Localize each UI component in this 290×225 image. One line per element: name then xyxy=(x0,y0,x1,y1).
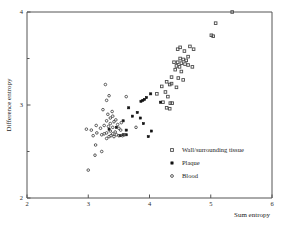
marker-blood xyxy=(109,122,112,125)
marker-blood xyxy=(94,154,97,157)
marker-blood xyxy=(105,120,108,123)
marker-plaque xyxy=(171,162,173,164)
marker-wall-tissue xyxy=(171,102,174,105)
marker-plaque xyxy=(147,136,149,138)
marker-wall-tissue xyxy=(170,82,173,85)
marker-plaque xyxy=(150,93,152,95)
marker-plaque xyxy=(150,130,152,132)
marker-wall-tissue xyxy=(192,48,195,51)
marker-wall-tissue xyxy=(182,58,185,61)
marker-wall-tissue xyxy=(187,64,190,67)
marker-blood xyxy=(111,110,114,113)
y-tick-label: 4 xyxy=(20,8,24,15)
marker-blood xyxy=(116,123,119,126)
marker-wall-tissue xyxy=(180,70,183,73)
marker-wall-tissue xyxy=(189,45,192,48)
marker-wall-tissue xyxy=(185,59,188,62)
legend-label: Wall/surrounding tissue xyxy=(182,146,244,153)
axes: 23456234 xyxy=(20,8,275,207)
marker-blood xyxy=(95,124,98,127)
marker-wall-tissue xyxy=(175,65,178,68)
marker-wall-tissue xyxy=(177,77,180,80)
marker-wall-tissue xyxy=(214,22,217,25)
marker-wall-tissue xyxy=(160,85,163,88)
marker-wall-tissue xyxy=(178,66,181,69)
marker-blood xyxy=(87,169,90,172)
marker-blood xyxy=(100,133,103,136)
marker-wall-tissue xyxy=(171,149,174,152)
y-axis-title: Difference entropy xyxy=(5,78,13,131)
marker-plaque xyxy=(131,115,133,117)
legend: Wall/surrounding tissuePlaqueBlood xyxy=(171,146,244,179)
x-axis-title: Sum entropy xyxy=(234,211,270,219)
marker-wall-tissue xyxy=(212,35,215,38)
marker-plaque xyxy=(142,123,144,125)
marker-wall-tissue xyxy=(183,50,186,53)
marker-blood xyxy=(90,129,93,132)
marker-blood xyxy=(111,126,114,129)
marker-wall-tissue xyxy=(156,93,159,96)
marker-wall-tissue xyxy=(165,106,168,109)
legend-label: Blood xyxy=(182,172,199,179)
series-open-square xyxy=(156,11,234,110)
marker-blood xyxy=(94,144,97,147)
marker-blood xyxy=(100,150,103,153)
x-tick-label: 3 xyxy=(87,200,90,207)
series-open-circle xyxy=(85,83,137,171)
marker-plaque xyxy=(125,129,127,131)
marker-wall-tissue xyxy=(179,57,182,60)
legend-label: Plaque xyxy=(182,159,200,166)
marker-blood xyxy=(99,127,102,130)
marker-blood xyxy=(113,135,116,138)
marker-blood xyxy=(109,130,112,133)
x-tick-label: 2 xyxy=(25,200,28,207)
marker-blood xyxy=(107,125,110,128)
marker-blood xyxy=(171,175,174,178)
marker-blood xyxy=(111,115,114,118)
marker-wall-tissue xyxy=(174,68,177,71)
marker-wall-tissue xyxy=(180,62,183,65)
marker-wall-tissue xyxy=(191,66,194,69)
marker-blood xyxy=(92,134,95,137)
marker-plaque xyxy=(136,111,138,113)
marker-wall-tissue xyxy=(168,107,171,110)
marker-wall-tissue xyxy=(182,79,185,82)
marker-blood xyxy=(114,131,117,134)
marker-wall-tissue xyxy=(176,61,179,64)
plot-canvas: 23456234 Wall/surrounding tissuePlaqueBl… xyxy=(0,0,290,225)
marker-wall-tissue xyxy=(187,55,190,58)
marker-plaque xyxy=(139,117,141,119)
marker-wall-tissue xyxy=(184,63,187,66)
marker-blood xyxy=(135,126,138,129)
marker-blood xyxy=(105,99,108,102)
marker-blood xyxy=(85,128,88,131)
marker-wall-tissue xyxy=(175,86,178,89)
marker-blood xyxy=(96,132,99,135)
marker-wall-tissue xyxy=(164,91,167,94)
x-tick-label: 6 xyxy=(270,200,274,207)
y-tick-label: 3 xyxy=(20,101,23,108)
legend-entry: Wall/surrounding tissue xyxy=(171,146,244,153)
marker-plaque xyxy=(159,101,161,103)
marker-plaque xyxy=(140,100,142,102)
marker-wall-tissue xyxy=(167,95,170,98)
marker-wall-tissue xyxy=(165,80,168,83)
marker-blood xyxy=(109,117,112,120)
marker-blood xyxy=(119,129,122,132)
scatter-plot-figure: 23456234 Wall/surrounding tissuePlaqueBl… xyxy=(0,0,290,225)
x-tick-label: 4 xyxy=(148,200,152,207)
marker-blood xyxy=(110,134,113,137)
x-tick-label: 5 xyxy=(209,200,212,207)
marker-blood xyxy=(107,113,110,116)
marker-wall-tissue xyxy=(176,48,179,51)
marker-blood xyxy=(105,137,108,140)
marker-blood xyxy=(102,108,105,111)
y-tick-label: 2 xyxy=(20,194,23,201)
marker-blood xyxy=(104,83,107,86)
marker-plaque xyxy=(128,107,130,109)
marker-blood xyxy=(120,121,123,124)
marker-blood xyxy=(125,95,128,98)
legend-entry: Plaque xyxy=(171,159,200,166)
marker-blood xyxy=(103,124,106,127)
marker-wall-tissue xyxy=(173,61,176,64)
